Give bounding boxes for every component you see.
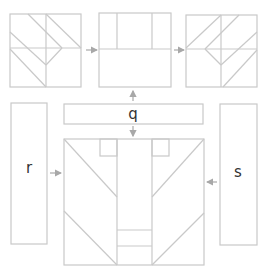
diagram-canvas: q r s: [0, 0, 265, 273]
top-middle-frame: [99, 13, 171, 87]
strip-q: q: [64, 104, 203, 124]
strip-s: s: [220, 104, 257, 245]
strip-q-label: q: [128, 105, 138, 123]
top-right-pattern: [186, 15, 257, 87]
strip-r: r: [11, 103, 47, 244]
top-left-pattern: [10, 14, 81, 87]
strip-r-label: r: [26, 159, 33, 177]
bottom-assembly: [64, 139, 204, 265]
top-middle-pattern: [99, 13, 171, 87]
strip-s-label: s: [234, 163, 242, 181]
